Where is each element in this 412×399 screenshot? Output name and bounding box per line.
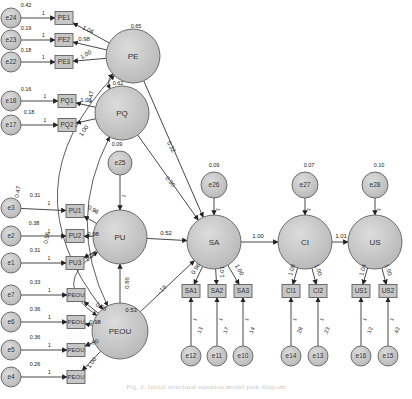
covariance-coef: 0.47 [14, 185, 22, 198]
node-label: PE2 [58, 36, 71, 43]
node-label: e11 [212, 352, 223, 359]
loading-sa2 [216, 269, 217, 285]
variance-label: 0.07 [304, 162, 315, 168]
indicator-pe2: PE2 [55, 34, 73, 47]
figure-caption: Fig. 2. Initial structural equation mode… [0, 383, 412, 391]
fixed-weight: 1 [305, 207, 312, 212]
fixed-weight: 1 [214, 207, 221, 212]
fixed-weight: 1 [48, 255, 51, 261]
fixed-weight: 1 [291, 317, 298, 322]
indicator-us1: US1 [352, 285, 370, 298]
variance-label: .23 [322, 326, 330, 335]
loading-coef: 1.08 [287, 263, 296, 276]
node-label: US1 [355, 287, 368, 294]
loading-pe3 [73, 58, 106, 61]
loading-pq1 [76, 103, 96, 107]
node-label: PE1 [58, 14, 71, 21]
node-label: PEOU [67, 292, 84, 298]
error-e6: e6 [1, 312, 21, 332]
indicator-ci2: CI2 [309, 285, 327, 298]
node-label: PQ1 [60, 97, 73, 105]
indicator-us2: US2 [379, 285, 397, 298]
variance-label: 0.42 [21, 2, 32, 8]
path-pu-to-sa [147, 238, 187, 240]
node-label: e26 [209, 181, 220, 188]
fixed-weight: 1 [48, 200, 51, 206]
variance-label: .28 [295, 326, 303, 335]
latent-pq: PQ [95, 86, 149, 140]
path-coef: 0.86 [124, 277, 130, 289]
node-label: e5 [7, 346, 15, 353]
node-label: PE [128, 52, 139, 61]
loading-coef: 1.00 [314, 263, 324, 277]
indicator-peou1: PEOU [67, 289, 85, 302]
node-label: SA1 [185, 287, 198, 294]
variance-label: 0.09 [112, 141, 123, 147]
node-label: e25 [115, 159, 126, 166]
error-e22: e22 [1, 52, 21, 72]
loading-coef: 1.00 [86, 356, 98, 370]
indicator-pe1: PE1 [55, 12, 73, 25]
fixed-weight: 1 [217, 317, 224, 322]
error-e1: e1 [1, 253, 21, 273]
variance-label: 0.09 [209, 162, 220, 168]
node-label: e28 [370, 181, 381, 188]
error-e11: e11 [207, 346, 227, 366]
node-label: e3 [7, 204, 15, 211]
node-label: e17 [6, 121, 17, 128]
indicator-peou3: PEOU [67, 344, 85, 357]
indicator-sa3: SA3 [234, 285, 252, 298]
fixed-weight: 1 [361, 317, 368, 322]
covariance-coef: 0.53 [125, 307, 137, 313]
node-label: e10 [238, 352, 249, 359]
variance-label: 0.31 [30, 247, 41, 253]
node-label: e15 [383, 352, 394, 359]
variance-label: .13 [195, 326, 203, 335]
indicator-pu1: PU1 [66, 205, 84, 218]
error-e5: e5 [1, 340, 21, 360]
indicator-peou4: PEOU [67, 371, 85, 384]
error-path-e3 [21, 208, 66, 210]
latent-sa: SA [187, 215, 241, 269]
error-e2: e2 [1, 226, 21, 246]
sem-path-diagram: PEPQPUPEOUSACIUSe25e26e27e28e24e23e22e18… [0, 0, 412, 399]
fixed-weight: 1 [191, 317, 198, 322]
loading-coef: 1.04 [82, 24, 96, 35]
node-label: PQ2 [60, 121, 73, 129]
disturbance-e27: e27 [292, 172, 318, 198]
variance-label: .12 [365, 326, 373, 335]
node-label: SA2 [211, 287, 224, 294]
node-label: CI [301, 238, 309, 247]
loading-coef: 1.00 [79, 49, 93, 60]
variance-label: 0.36 [30, 306, 41, 312]
error-e13: e13 [308, 346, 328, 366]
variance-label: 0.33 [30, 279, 41, 285]
node-label: e14 [286, 352, 297, 359]
loading-coef: 1.00 [384, 263, 394, 277]
node-label: e22 [6, 58, 17, 65]
variance-label: .17 [221, 326, 229, 335]
fixed-weight: 1 [44, 117, 47, 123]
fixed-weight: 1 [243, 317, 250, 322]
loading-coef: 1.01 [80, 97, 92, 103]
node-label: e24 [6, 14, 17, 21]
path-coef: 0.52 [160, 230, 172, 236]
loading-coef: 1.00 [234, 263, 245, 277]
indicator-pq1: PQ1 [58, 95, 76, 108]
error-e10: e10 [233, 346, 253, 366]
error-e18: e18 [1, 91, 21, 111]
indicator-pe3: PE3 [55, 56, 73, 69]
latent-us: US [348, 215, 402, 269]
node-label: PEOU [109, 327, 132, 336]
node-label: e13 [313, 352, 324, 359]
node-label: PU3 [69, 259, 82, 266]
node-label: e1 [7, 259, 15, 266]
indicator-peou2: PEOU [67, 316, 85, 329]
node-label: e23 [6, 36, 17, 43]
fixed-weight: 1 [42, 10, 45, 16]
fixed-weight: 1 [42, 32, 45, 38]
fixed-weight: 1 [42, 54, 45, 60]
variance-label: 0.19 [21, 25, 32, 31]
fixed-weight: 1 [48, 314, 51, 320]
indicator-pq2: PQ2 [58, 119, 76, 132]
